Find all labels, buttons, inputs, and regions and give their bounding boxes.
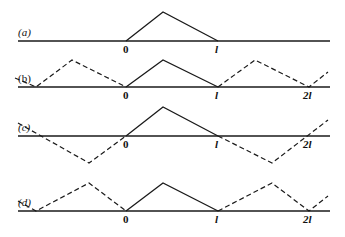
- panel-label-d: (d): [18, 197, 31, 208]
- tick-label: 0: [123, 214, 129, 225]
- panel-label-a: (a): [18, 27, 31, 38]
- dashed-extension: [218, 60, 328, 87]
- panel-label-b: (b): [18, 73, 31, 84]
- panel-b: [15, 60, 330, 87]
- solid-triangle-pulse: [126, 107, 218, 136]
- tick-label: l: [215, 139, 218, 150]
- tick-label: 0: [123, 90, 129, 101]
- panel-c: [18, 107, 330, 163]
- tick-label: 2l: [303, 214, 312, 225]
- dashed-extension: [18, 183, 126, 211]
- panel-d: [18, 183, 330, 211]
- panel-label-c: (c): [18, 122, 30, 133]
- tick-label: l: [215, 90, 218, 101]
- tick-label: 2l: [303, 90, 312, 101]
- tick-label: 2l: [303, 139, 312, 150]
- tick-label: 0: [123, 44, 129, 55]
- dashed-extension: [15, 60, 126, 87]
- tick-label: 0: [123, 139, 129, 150]
- dashed-extension: [18, 123, 126, 163]
- panel-a: [18, 12, 330, 41]
- tick-label: l: [215, 214, 218, 225]
- solid-triangle-pulse: [126, 183, 218, 211]
- diagram-canvas: [0, 0, 345, 237]
- solid-triangle-pulse: [126, 12, 218, 41]
- tick-label: l: [215, 44, 218, 55]
- dashed-extension: [218, 183, 328, 211]
- solid-triangle-pulse: [126, 60, 218, 87]
